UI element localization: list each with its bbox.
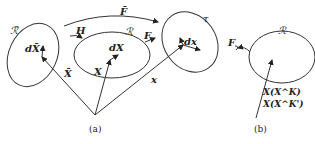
label-x-lower: x	[151, 75, 157, 85]
label-dx-bar: dX̄	[25, 44, 40, 54]
diagram: ℛ̄ ℛ τ ℛ F̄ H F F X̄ X x dX̄ dX dx X(X^K…	[0, 0, 315, 144]
label-dx-lower: dx	[184, 37, 197, 47]
region-r	[74, 32, 150, 78]
label-f-b: F	[228, 38, 235, 48]
label-f-bar: F̄	[120, 7, 127, 17]
label-x-xk-prime: X(X^K')	[263, 100, 304, 109]
region-r-b	[249, 31, 315, 83]
label-tau: τ	[203, 14, 209, 24]
label-r: ℛ	[125, 27, 133, 37]
label-x-xk: X(X^K)	[263, 88, 301, 97]
label-dx-upper: dX	[109, 43, 124, 53]
label-r-bar: ℛ̄	[10, 26, 18, 36]
caption-b: (b)	[254, 125, 267, 134]
diagram-lines	[0, 0, 315, 144]
label-r-b: ℛ	[278, 26, 286, 36]
caption-a: (a)	[89, 125, 101, 134]
label-f: F	[144, 31, 151, 41]
label-h: H	[76, 26, 85, 36]
label-x-bar: X̄	[64, 69, 72, 79]
label-x: X	[94, 67, 102, 77]
